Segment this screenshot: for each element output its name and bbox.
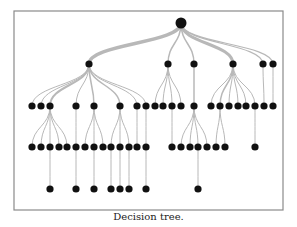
tree-node xyxy=(216,102,223,109)
tree-root-node xyxy=(176,18,187,29)
tree-node xyxy=(72,102,79,109)
tree-node xyxy=(186,143,193,150)
tree-node xyxy=(194,185,201,192)
tree-edge xyxy=(50,106,59,147)
tree-node xyxy=(260,102,267,109)
tree-edge xyxy=(155,64,168,106)
tree-edge xyxy=(111,106,120,147)
tree-node xyxy=(85,60,92,67)
tree-node xyxy=(37,102,44,109)
tree-node xyxy=(63,143,70,150)
tree-node xyxy=(125,185,132,192)
tree-node xyxy=(151,102,158,109)
tree-node xyxy=(28,143,35,150)
tree-node xyxy=(190,60,197,67)
tree-node xyxy=(28,102,35,109)
tree-node xyxy=(142,102,149,109)
tree-node xyxy=(259,60,266,67)
tree-edge xyxy=(263,64,264,106)
tree-node xyxy=(116,102,123,109)
tree-node xyxy=(72,185,79,192)
tree-node xyxy=(46,102,53,109)
tree-edge xyxy=(181,23,273,64)
tree-edge xyxy=(94,106,103,147)
tree-edge xyxy=(89,23,181,64)
tree-edge xyxy=(85,106,94,147)
tree-node xyxy=(207,102,214,109)
tree-node xyxy=(99,143,106,150)
tree-node xyxy=(212,143,219,150)
tree-nodes xyxy=(28,18,276,193)
tree-node xyxy=(168,143,175,150)
tree-node xyxy=(229,60,236,67)
tree-edge xyxy=(233,64,255,106)
tree-edge xyxy=(32,64,89,106)
tree-node xyxy=(90,102,97,109)
tree-node xyxy=(133,143,140,150)
decision-tree-figure: Decision tree. xyxy=(0,0,297,227)
tree-node xyxy=(242,102,249,109)
tree-node xyxy=(116,143,123,150)
tree-node xyxy=(269,102,276,109)
tree-node xyxy=(37,143,44,150)
tree-node xyxy=(177,143,184,150)
tree-node xyxy=(159,102,166,109)
tree-node xyxy=(55,143,62,150)
tree-node xyxy=(225,102,232,109)
tree-edge xyxy=(229,64,233,106)
tree-edge xyxy=(211,64,233,106)
tree-node xyxy=(90,143,97,150)
decision-tree-diagram xyxy=(0,0,297,227)
tree-node xyxy=(190,102,197,109)
tree-node xyxy=(269,60,276,67)
tree-node xyxy=(164,60,171,67)
tree-node xyxy=(133,102,140,109)
tree-node xyxy=(46,185,53,192)
tree-edge xyxy=(41,64,89,106)
tree-edge xyxy=(216,106,220,147)
tree-node xyxy=(168,102,175,109)
tree-edge xyxy=(50,64,89,106)
tree-node xyxy=(234,102,241,109)
tree-node xyxy=(251,143,258,150)
tree-node xyxy=(251,102,258,109)
tree-edge xyxy=(120,106,129,147)
tree-edge xyxy=(89,64,137,106)
tree-node xyxy=(116,185,123,192)
tree-node xyxy=(46,143,53,150)
tree-node xyxy=(203,143,210,150)
tree-node xyxy=(107,185,114,192)
tree-node xyxy=(72,143,79,150)
tree-node xyxy=(221,143,228,150)
tree-node xyxy=(142,185,149,192)
tree-edge xyxy=(220,106,225,147)
tree-node xyxy=(90,185,97,192)
tree-edge xyxy=(190,106,194,147)
tree-node xyxy=(177,102,184,109)
tree-node xyxy=(194,143,201,150)
tree-edge xyxy=(41,106,50,147)
tree-node xyxy=(107,143,114,150)
tree-node xyxy=(81,143,88,150)
tree-node xyxy=(142,143,149,150)
tree-edge xyxy=(89,64,146,106)
tree-node xyxy=(125,143,132,150)
figure-caption: Decision tree. xyxy=(0,211,297,222)
